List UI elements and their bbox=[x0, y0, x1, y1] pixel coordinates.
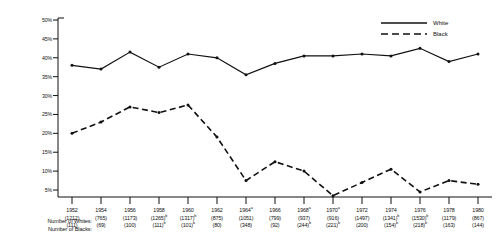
data-point-black bbox=[303, 170, 306, 173]
data-point-white bbox=[71, 64, 74, 67]
data-point-white bbox=[332, 54, 335, 57]
footer-column-1980: 1980(867)(144) bbox=[458, 207, 498, 230]
data-point-black bbox=[361, 181, 364, 184]
axes-group bbox=[58, 18, 492, 197]
polyline-white bbox=[72, 48, 478, 75]
polyline-black bbox=[72, 105, 478, 196]
chart-figure: 50%45%40%35%30%25%20%15%10%5% White Blac… bbox=[0, 0, 500, 249]
data-point-white bbox=[216, 56, 219, 59]
data-point-black bbox=[187, 104, 190, 107]
legend-label-white: White bbox=[433, 20, 448, 26]
x-axis-ticks bbox=[72, 197, 478, 204]
data-point-white bbox=[448, 60, 451, 63]
data-point-white bbox=[100, 68, 103, 71]
data-point-white bbox=[361, 53, 364, 56]
data-point-black bbox=[71, 132, 74, 135]
footer-year-label: 1980 bbox=[458, 207, 498, 215]
data-point-black bbox=[129, 105, 132, 108]
footer-whites-count: (867) bbox=[458, 215, 498, 223]
data-point-white bbox=[303, 54, 306, 57]
data-point-white bbox=[419, 47, 422, 50]
legend-swatches bbox=[381, 23, 427, 34]
data-point-black bbox=[245, 179, 248, 182]
data-point-black bbox=[332, 194, 335, 197]
data-point-white bbox=[245, 73, 248, 76]
data-point-black bbox=[216, 136, 219, 139]
data-point-white bbox=[390, 54, 393, 57]
legend-label-black: Black bbox=[433, 31, 448, 37]
footer-blacks-count: (144) bbox=[458, 222, 498, 230]
data-point-black bbox=[448, 179, 451, 182]
data-point-white bbox=[158, 66, 161, 69]
data-point-black bbox=[477, 183, 480, 186]
data-point-black bbox=[274, 160, 277, 163]
data-point-white bbox=[129, 51, 132, 54]
data-point-black bbox=[390, 168, 393, 171]
series-line-black bbox=[71, 104, 480, 198]
data-point-white bbox=[477, 53, 480, 56]
y-axis-ticks bbox=[53, 20, 58, 190]
data-point-white bbox=[274, 62, 277, 65]
data-point-black bbox=[158, 111, 161, 114]
data-point-black bbox=[419, 190, 422, 193]
data-point-black bbox=[100, 121, 103, 124]
series-line-white bbox=[71, 47, 480, 77]
data-point-white bbox=[187, 53, 190, 56]
